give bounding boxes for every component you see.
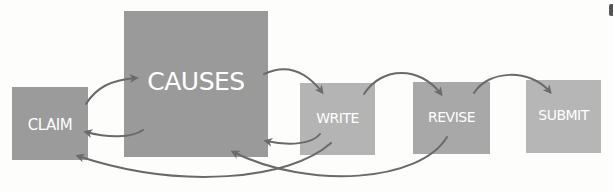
arrow-revise-to-causes xyxy=(233,137,447,176)
cropped-edge-mark xyxy=(609,4,613,16)
arrow-claim-to-causes xyxy=(86,78,136,104)
writing-process-diagram: CLAIM CAUSES WRITE REVISE SUBMIT xyxy=(0,0,613,192)
arrow-write-to-revise xyxy=(364,73,441,94)
arrow-write-to-causes xyxy=(266,134,320,144)
arrow-revise-to-submit xyxy=(474,75,550,93)
arrow-causes-to-write xyxy=(264,69,322,92)
arrow-causes-to-claim xyxy=(86,130,143,136)
arrows-layer xyxy=(0,0,613,192)
